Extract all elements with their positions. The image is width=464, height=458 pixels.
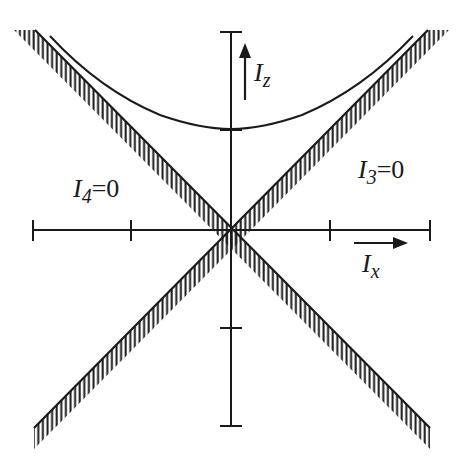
iz-label-main: I (254, 58, 263, 87)
diagram-canvas: Iz Ix I4=0 I3=0 (0, 0, 464, 458)
i4-equals-zero-label: I4=0 (73, 176, 119, 202)
i3-label-rest: =0 (377, 155, 405, 184)
ix-label: Ix (362, 251, 380, 277)
arrowhead-right-icon (393, 237, 408, 249)
ix-label-main: I (362, 249, 371, 278)
iz-arrow (239, 43, 251, 100)
i3-equals-zero-label: I3=0 (358, 157, 404, 183)
ix-label-sub: x (371, 260, 380, 282)
ix-arrow (354, 237, 408, 249)
arrowhead-up-icon (239, 43, 251, 58)
i4-label-main: I (73, 174, 82, 203)
i4-label-rest: =0 (92, 174, 120, 203)
iz-label-sub: z (263, 69, 271, 91)
i3-label-main: I (358, 155, 367, 184)
iz-label: Iz (254, 60, 270, 86)
i3-label-sub: 3 (367, 166, 377, 188)
diagram-svg (0, 0, 464, 458)
i4-label-sub: 4 (82, 185, 92, 207)
